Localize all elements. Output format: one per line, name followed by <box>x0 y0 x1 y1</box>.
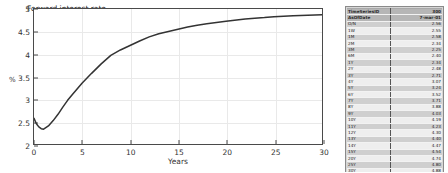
x-axis-label: Years <box>33 157 323 166</box>
y-tick-label: 5 <box>25 5 34 14</box>
y-tick-label: 4.5 <box>18 27 34 36</box>
x-tick-label: 0 <box>32 144 37 157</box>
table-row[interactable]: 30Y4.88 <box>347 168 442 172</box>
x-tick-label: 30 <box>319 144 329 157</box>
x-tick-label: 5 <box>80 144 85 157</box>
forward-rate-chart: Forward interest rate % 22.533.544.55 05… <box>0 0 340 172</box>
y-axis-label: % <box>9 76 16 84</box>
rate-table-body: TimeSeriesID300AsOfDate7-mar-01O/N2.561W… <box>347 9 442 173</box>
x-tick-label: 20 <box>223 144 233 157</box>
y-tick-label: 3.5 <box>18 73 34 82</box>
rate-table: TimeSeriesID300AsOfDate7-mar-01O/N2.561W… <box>347 8 442 172</box>
x-tick-label: 25 <box>271 144 281 157</box>
tenor-label-cell: 30Y <box>347 168 391 172</box>
plot-area: 22.533.544.55 051015202530 <box>33 8 323 145</box>
y-tick-label: 3 <box>25 96 34 105</box>
rate-value-cell: 4.88 <box>391 168 442 172</box>
x-tick-mark <box>324 140 325 144</box>
y-tick-label: 2.5 <box>18 119 34 128</box>
x-tick-label: 15 <box>174 144 184 157</box>
x-tick-label: 10 <box>126 144 136 157</box>
y-tick-label: 4 <box>25 50 34 59</box>
screenshot-root: Forward interest rate % 22.533.544.55 05… <box>0 0 448 172</box>
rate-data-table[interactable]: TimeSeriesID300AsOfDate7-mar-01O/N2.561W… <box>345 6 444 172</box>
series-line-forward-interest-rate <box>34 9 322 144</box>
